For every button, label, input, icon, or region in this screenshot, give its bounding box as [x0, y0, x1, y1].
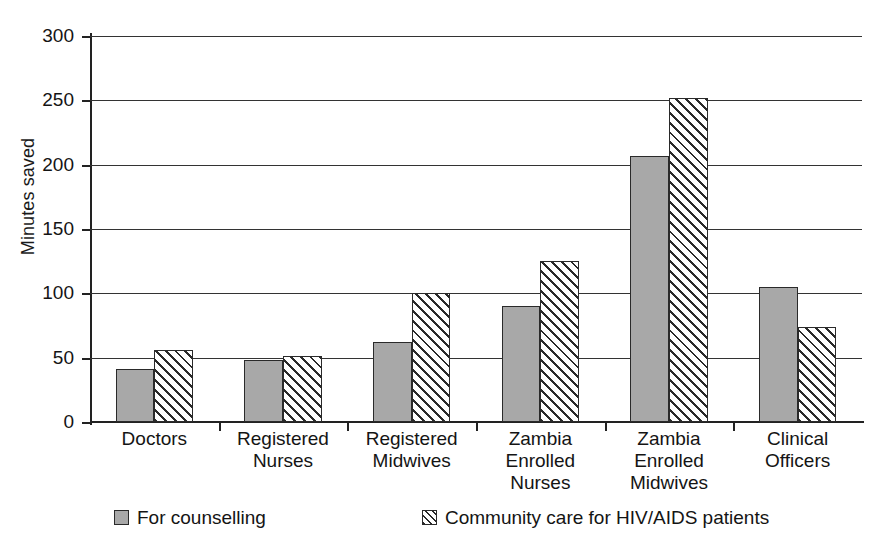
bar-counselling	[759, 287, 798, 422]
y-tick-label: 150	[10, 219, 74, 238]
legend-label: For counselling	[137, 508, 266, 527]
bar-community-care	[154, 350, 193, 422]
x-axis-category-label: Doctors	[90, 428, 219, 450]
bar-community-care	[540, 261, 579, 422]
x-axis-category-label: ZambiaEnrolledNurses	[476, 428, 605, 494]
bar-community-care	[798, 327, 837, 422]
plot-area	[90, 36, 862, 422]
bar-counselling	[116, 369, 155, 422]
x-axis-category-label: ClinicalOfficers	[733, 428, 862, 472]
x-axis-category-label: RegisteredNurses	[219, 428, 348, 472]
bar-counselling	[373, 342, 412, 422]
legend-item-community-care: Community care for HIV/AIDS patients	[422, 508, 769, 527]
gridline	[90, 293, 862, 294]
gridline	[90, 100, 862, 101]
gridline	[90, 229, 862, 230]
bar-counselling	[244, 360, 283, 422]
y-tick-label: 100	[10, 283, 74, 302]
y-tick-label: 300	[10, 26, 74, 45]
bar-chart: Minutes saved 050100150200250300 Doctors…	[0, 0, 880, 552]
bar-community-care	[412, 293, 451, 422]
gridline	[90, 358, 862, 359]
legend-swatch-solid-icon	[114, 510, 129, 525]
y-tick-label: 200	[10, 155, 74, 174]
bar-counselling	[502, 306, 541, 422]
bar-counselling	[630, 156, 669, 422]
legend-label: Community care for HIV/AIDS patients	[445, 508, 769, 527]
bar-community-care	[669, 98, 708, 422]
gridline	[90, 165, 862, 166]
y-axis-title: Minutes saved	[18, 107, 39, 287]
gridline	[90, 36, 862, 37]
x-axis-category-label: RegisteredMidwives	[347, 428, 476, 472]
y-tick-label: 250	[10, 90, 74, 109]
bar-community-care	[283, 356, 322, 422]
y-tick-label: 50	[10, 348, 74, 367]
legend-swatch-hatch-icon	[422, 510, 437, 525]
legend-item-for-counselling: For counselling	[114, 508, 266, 527]
y-tick-label: 0	[10, 412, 74, 431]
x-axis-category-label: ZambiaEnrolledMidwives	[605, 428, 734, 494]
chart-legend: For counselling Community care for HIV/A…	[0, 508, 880, 538]
